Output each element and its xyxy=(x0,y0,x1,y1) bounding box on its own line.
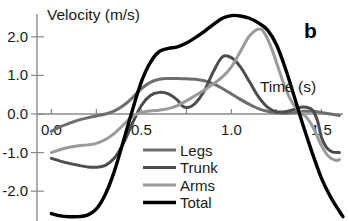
axes-group: -2.0-1.00.01.02.0 0.00.51.01.5 xyxy=(2,14,343,221)
x-tick-label: 0.0 xyxy=(41,121,62,138)
y-tick-label: 0.0 xyxy=(7,105,28,122)
legend-label-total: Total xyxy=(180,194,212,211)
y-tick-label: 2.0 xyxy=(7,28,28,45)
legend-label-trunk: Trunk xyxy=(180,159,218,176)
y-tick-label: -2.0 xyxy=(2,182,28,199)
y-axis-tick-labels: -2.0-1.00.01.02.0 xyxy=(2,28,28,199)
x-tick-label: 1.0 xyxy=(221,121,242,138)
velocity-time-chart: -2.0-1.00.01.02.0 0.00.51.01.5 Velocity … xyxy=(0,0,349,221)
y-axis-title: Velocity (m/s) xyxy=(47,6,140,23)
chart-legend: LegsTrunkArmsTotal xyxy=(143,142,218,212)
y-tick-label: -1.0 xyxy=(2,144,28,161)
legend-label-legs: Legs xyxy=(180,142,213,159)
legend-label-arms: Arms xyxy=(180,177,215,194)
x-tick-label: 0.5 xyxy=(131,121,152,138)
y-tick-label: 1.0 xyxy=(7,66,28,83)
chart-canvas: -2.0-1.00.01.02.0 0.00.51.01.5 Velocity … xyxy=(0,0,349,221)
x-axis-title: Time (s) xyxy=(260,78,316,95)
panel-label: b xyxy=(304,19,317,42)
x-axis-tick-labels: 0.00.51.01.5 xyxy=(41,121,332,138)
